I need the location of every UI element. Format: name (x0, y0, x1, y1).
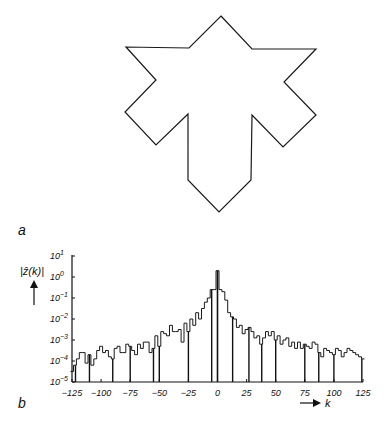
panel-label-a: a (18, 222, 26, 238)
star-polygon-shape (125, 16, 316, 212)
x-arrow-head-icon (313, 399, 321, 407)
y-tick-label: 10−1 (50, 291, 68, 303)
panel-label-b: b (18, 395, 26, 411)
x-tick-label: 25 (241, 388, 253, 398)
y-axis-label: |ẑ(k)| (20, 265, 44, 277)
y-tick-label: 10−4 (50, 354, 68, 366)
y-tick-label: 100 (50, 270, 64, 282)
y-axis-ticks: 10110010−110−210−310−410−5 (50, 249, 75, 387)
x-tick-label: 0 (215, 388, 220, 398)
y-tick-label: 101 (50, 249, 64, 261)
spectrum-chart: 10110010−110−210−310−410−5 −125−100−75−5… (20, 249, 371, 409)
y-tick-label: 10−5 (50, 375, 68, 387)
y-arrow-head-icon (30, 280, 38, 288)
x-tick-label: 75 (300, 388, 311, 398)
y-tick-label: 10−2 (50, 312, 68, 324)
x-tick-label: −100 (91, 388, 111, 398)
x-axis-label: k (325, 397, 331, 409)
x-tick-label: −75 (123, 388, 139, 398)
x-tick-label: −125 (62, 388, 83, 398)
y-tick-label: 10−3 (50, 333, 68, 345)
x-tick-label: −50 (152, 388, 167, 398)
x-tick-label: −25 (181, 388, 197, 398)
x-tick-label: 125 (355, 388, 371, 398)
figure: 10110010−110−210−310−410−5 −125−100−75−5… (0, 0, 390, 433)
x-tick-label: 50 (271, 388, 281, 398)
